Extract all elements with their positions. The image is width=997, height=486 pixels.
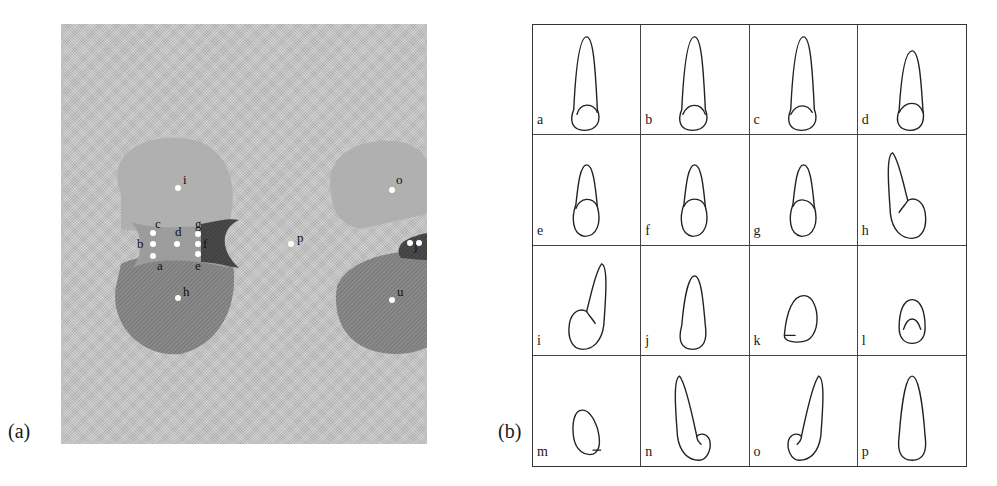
grid-cell-b: b bbox=[641, 25, 749, 135]
point-marker-l bbox=[416, 240, 422, 246]
point-marker-j bbox=[407, 240, 413, 246]
outline-shape-icon bbox=[533, 135, 640, 244]
outline-shape-icon bbox=[750, 356, 857, 466]
point-marker-d bbox=[174, 241, 180, 247]
segmentation-map: abcdefghijklmopu bbox=[61, 24, 427, 444]
cell-label: o bbox=[754, 444, 761, 460]
cell-label: e bbox=[537, 223, 543, 239]
shape-grid: abcdefghijklmnop bbox=[532, 24, 967, 467]
panel-a-image: abcdefghijklmopu bbox=[61, 24, 427, 444]
grid-cell-a: a bbox=[533, 25, 641, 135]
point-label-u: u bbox=[397, 284, 404, 299]
point-marker-u bbox=[389, 297, 395, 303]
grid-cell-f: f bbox=[641, 135, 749, 245]
outline-shape-icon bbox=[533, 246, 640, 355]
outline-shape-icon bbox=[641, 135, 748, 244]
point-label-c: c bbox=[155, 216, 161, 231]
panel-b-label: (b) bbox=[498, 420, 521, 443]
left-lower-lobe bbox=[115, 254, 234, 355]
point-marker-f bbox=[195, 241, 201, 247]
outline-shape-icon bbox=[750, 135, 857, 244]
outline-shape-icon bbox=[858, 246, 966, 355]
outline-shape-icon bbox=[858, 25, 966, 134]
point-marker-o bbox=[389, 187, 395, 193]
outline-shape-icon bbox=[641, 25, 748, 134]
point-label-g: g bbox=[195, 216, 202, 231]
cell-label: i bbox=[537, 333, 541, 349]
outline-shape-icon bbox=[641, 356, 748, 466]
grid-cell-j: j bbox=[641, 246, 749, 356]
cell-label: l bbox=[862, 333, 866, 349]
cell-label: a bbox=[537, 112, 543, 128]
outline-shape-icon bbox=[858, 135, 966, 244]
point-label-f: f bbox=[203, 236, 208, 251]
point-marker-a bbox=[150, 253, 156, 259]
grid-cell-k: k bbox=[750, 246, 858, 356]
outline-shape-icon bbox=[750, 25, 857, 134]
outline-shape-icon bbox=[533, 356, 640, 466]
cell-label: d bbox=[862, 112, 869, 128]
cell-label: j bbox=[645, 333, 649, 349]
point-label-d: d bbox=[175, 224, 182, 239]
grid-cell-c: c bbox=[750, 25, 858, 135]
right-lower-lobe bbox=[336, 251, 427, 354]
point-label-j: j bbox=[413, 238, 418, 253]
point-label-a: a bbox=[157, 258, 163, 273]
outline-shape-icon bbox=[750, 246, 857, 355]
point-label-o: o bbox=[396, 172, 403, 187]
panel-a-label: (a) bbox=[8, 420, 30, 443]
grid-cell-i: i bbox=[533, 246, 641, 356]
point-marker-p bbox=[288, 241, 294, 247]
point-marker-h bbox=[175, 295, 181, 301]
grid-cell-m: m bbox=[533, 356, 641, 466]
grid-cell-g: g bbox=[750, 135, 858, 245]
outline-shape-icon bbox=[533, 25, 640, 134]
grid-cell-p: p bbox=[858, 356, 966, 466]
grid-cell-d: d bbox=[858, 25, 966, 135]
point-marker-b bbox=[150, 241, 156, 247]
cell-label: p bbox=[862, 444, 869, 460]
point-label-h: h bbox=[183, 284, 190, 299]
right-dark-band bbox=[399, 231, 427, 261]
grid-cell-o: o bbox=[750, 356, 858, 466]
point-marker-i bbox=[175, 185, 181, 191]
point-label-l: l bbox=[426, 237, 427, 252]
point-marker-e bbox=[195, 251, 201, 257]
right-upper-lobe bbox=[330, 141, 427, 229]
grid-cell-e: e bbox=[533, 135, 641, 245]
cell-label: m bbox=[537, 444, 548, 460]
cell-label: b bbox=[645, 112, 652, 128]
cell-label: h bbox=[862, 223, 869, 239]
point-marker-g bbox=[195, 231, 201, 237]
point-label-b: b bbox=[137, 236, 144, 251]
point-label-i: i bbox=[183, 172, 187, 187]
cell-label: c bbox=[754, 112, 760, 128]
cell-label: k bbox=[754, 333, 761, 349]
outline-shape-icon bbox=[858, 356, 966, 466]
grid-cell-l: l bbox=[858, 246, 966, 356]
grid-cell-h: h bbox=[858, 135, 966, 245]
grid-cell-n: n bbox=[641, 356, 749, 466]
cell-label: g bbox=[754, 223, 761, 239]
cell-label: n bbox=[645, 444, 652, 460]
cell-label: f bbox=[645, 223, 650, 239]
outline-shape-icon bbox=[641, 246, 748, 355]
point-label-e: e bbox=[195, 258, 201, 273]
point-label-p: p bbox=[297, 230, 304, 245]
